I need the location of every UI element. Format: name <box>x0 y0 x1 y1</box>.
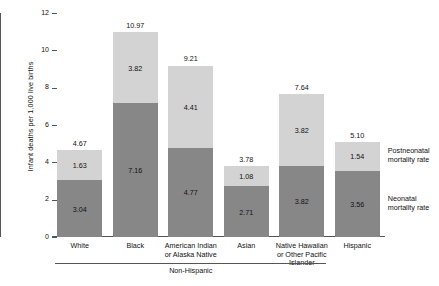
bar-segment-neonatal[interactable]: 3.04 <box>57 180 102 237</box>
bar-total-label: 4.67 <box>50 139 110 148</box>
bar-group[interactable]: 3.823.82 <box>279 13 324 237</box>
stacked-bar[interactable]: 1.082.71 <box>224 166 269 237</box>
bar-segment-neonatal[interactable]: 7.16 <box>113 103 158 237</box>
plot-area: 1.633.043.827.164.414.771.082.713.823.82… <box>52 13 385 237</box>
stacked-bar[interactable]: 4.414.77 <box>168 66 213 237</box>
bar-group[interactable]: 4.414.77 <box>168 13 213 237</box>
bar-segment-neonatal[interactable]: 3.56 <box>335 171 380 237</box>
bar-segment-neonatal[interactable]: 3.82 <box>279 166 324 237</box>
bar-group[interactable]: 1.543.56 <box>335 13 380 237</box>
bar-segment-value-postneonatal: 1.63 <box>57 161 102 170</box>
bar-total-label: 10.97 <box>105 21 165 30</box>
bar-segment-postneonatal[interactable]: 1.63 <box>57 150 102 180</box>
bar-total-label: 7.64 <box>272 83 332 92</box>
bar-segment-value-postneonatal: 1.54 <box>335 152 380 161</box>
bar-total-label: 3.78 <box>216 155 276 164</box>
legend-item-label-line2: mortality rate <box>388 204 430 213</box>
y-axis-tick-label: 12 <box>41 9 49 16</box>
stacked-bar[interactable]: 1.633.04 <box>57 150 102 237</box>
bar-segment-postneonatal[interactable]: 1.54 <box>335 142 380 171</box>
y-axis-title: Infant deaths per 1,000 live births <box>26 2 35 232</box>
bar-segment-postneonatal[interactable]: 1.08 <box>224 166 269 186</box>
bar-total-label: 9.21 <box>161 54 221 63</box>
bar-segment-value-neonatal: 2.71 <box>224 207 269 216</box>
y-axis-tick-label: 6 <box>45 121 49 128</box>
y-axis-tick-label: 10 <box>41 46 49 53</box>
non-hispanic-bracket-line <box>55 263 326 264</box>
x-axis-category-label-line: Hispanic <box>317 242 397 251</box>
bar-group[interactable]: 1.082.71 <box>224 13 269 237</box>
bar-segment-value-neonatal: 3.82 <box>279 197 324 206</box>
y-axis-tick-mark <box>52 237 57 238</box>
y-axis-tick-label: 0 <box>45 233 49 240</box>
bar-segment-value-neonatal: 3.04 <box>57 204 102 213</box>
bar-segment-postneonatal[interactable]: 3.82 <box>279 94 324 165</box>
bar-segment-neonatal[interactable]: 2.71 <box>224 186 269 237</box>
non-hispanic-bracket-label: Non-Hispanic <box>55 266 326 275</box>
bar-segment-value-postneonatal: 1.08 <box>224 172 269 181</box>
bar-segment-value-neonatal: 7.16 <box>113 166 158 175</box>
x-axis-category-label-line: or Alaska Native <box>151 251 231 260</box>
bar-segment-value-postneonatal: 3.82 <box>113 63 158 72</box>
legend-item: Postneonatalmortality rate <box>388 147 430 165</box>
bar-segment-value-postneonatal: 4.41 <box>168 102 213 111</box>
bar-segment-neonatal[interactable]: 4.77 <box>168 148 213 237</box>
legend-item-label-line2: mortality rate <box>388 156 430 165</box>
stacked-bar[interactable]: 1.543.56 <box>335 142 380 237</box>
bar-segment-postneonatal[interactable]: 3.82 <box>113 32 158 103</box>
bar-segment-postneonatal[interactable]: 4.41 <box>168 66 213 148</box>
stacked-bar[interactable]: 3.823.82 <box>279 94 324 237</box>
x-axis-category-label: Hispanic <box>317 242 397 251</box>
y-axis-tick-label: 2 <box>45 195 49 202</box>
y-axis-tick-label: 8 <box>45 83 49 90</box>
bar-segment-value-postneonatal: 3.82 <box>279 126 324 135</box>
bar-segment-value-neonatal: 3.56 <box>335 199 380 208</box>
bar-group[interactable]: 1.633.04 <box>57 13 102 237</box>
stacked-bar[interactable]: 3.827.16 <box>113 32 158 237</box>
legend-item: Neonatalmortality rate <box>388 195 430 213</box>
bar-total-label: 5.10 <box>327 131 387 140</box>
y-axis-tick-label: 4 <box>45 158 49 165</box>
bar-segment-value-neonatal: 4.77 <box>168 188 213 197</box>
y-axis-line <box>0 13 1 237</box>
infant-mortality-stacked-bar-chart: Infant deaths per 1,000 live births 0246… <box>0 0 439 286</box>
bar-group[interactable]: 3.827.16 <box>113 13 158 237</box>
